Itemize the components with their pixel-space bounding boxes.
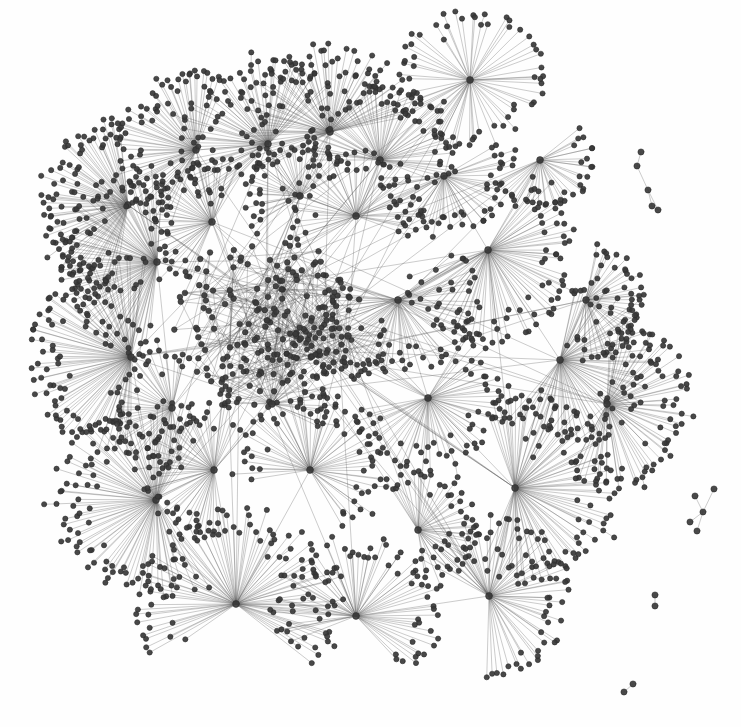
- network-graph-figure: Large undirected network laid out with a…: [0, 0, 741, 727]
- network-graph-canvas: [0, 0, 741, 727]
